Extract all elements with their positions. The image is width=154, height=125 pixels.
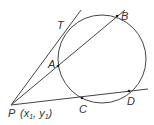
point-C-dot <box>81 97 84 100</box>
tangent-secant-diagram: T B A C D P (x1, y1) <box>0 0 154 125</box>
label-A: A <box>47 58 55 70</box>
point-B-dot <box>116 15 119 18</box>
label-B: B <box>121 10 128 22</box>
point-D-dot <box>128 90 131 93</box>
label-T: T <box>57 19 65 31</box>
point-A-dot <box>57 65 60 68</box>
label-D: D <box>127 95 135 107</box>
secant-line-PAB <box>11 10 125 105</box>
circle <box>58 15 146 103</box>
tangent-line-PT <box>11 10 81 105</box>
label-C: C <box>79 103 87 115</box>
label-P-name: P <box>8 107 16 119</box>
label-P: P (x1, y1) <box>8 107 53 120</box>
